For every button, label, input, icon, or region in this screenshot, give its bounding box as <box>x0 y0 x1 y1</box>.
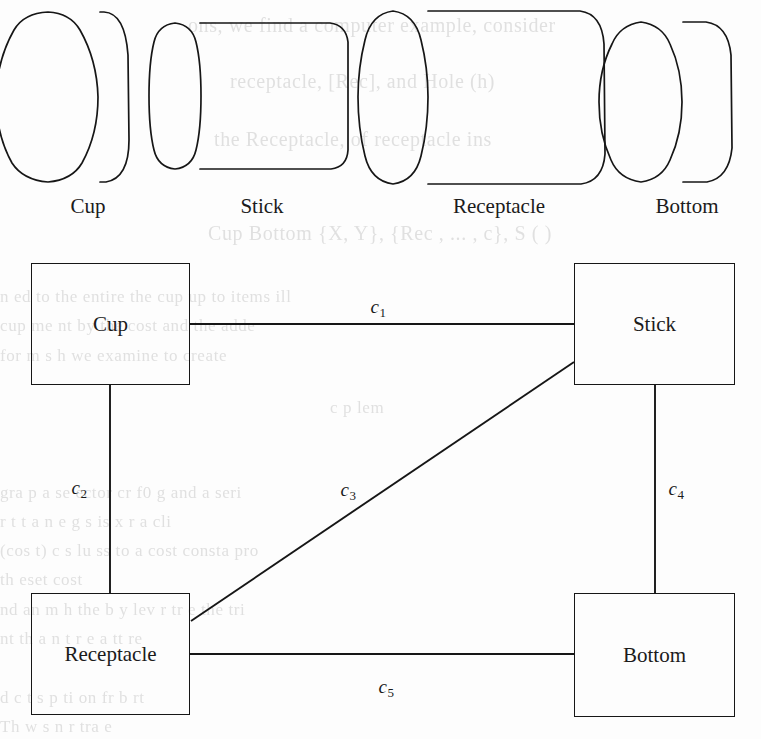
cylinder-caption-receptacle: Receptacle <box>453 196 545 217</box>
edge-label-c5-subscript: 5 <box>387 685 394 700</box>
edge-label-c3-symbol: c <box>341 479 349 500</box>
edge-label-c4: c4 <box>669 479 684 498</box>
graph-node-stick-label: Stick <box>633 314 676 335</box>
edge-label-c1-subscript: 1 <box>379 305 386 320</box>
graph-node-cup-label: Cup <box>93 314 128 335</box>
edge-label-c1: c1 <box>371 297 386 316</box>
edge-label-c2-symbol: c <box>72 477 80 498</box>
edge-label-c4-symbol: c <box>669 478 677 499</box>
edge-label-c2-subscript: 2 <box>80 486 87 501</box>
edge-c3-line <box>191 362 574 621</box>
edge-label-c3-subscript: 3 <box>349 488 356 503</box>
cylinder-receptacle <box>358 11 605 184</box>
edge-label-c3: c3 <box>341 480 356 499</box>
graph-node-stick[interactable]: Stick <box>574 263 735 385</box>
graph-node-cup[interactable]: Cup <box>31 263 190 385</box>
edge-label-c5: c5 <box>379 677 394 696</box>
figure-page: ons, we find a computer example, conside… <box>0 0 761 739</box>
graph-node-receptacle-label: Receptacle <box>64 644 156 665</box>
graph-node-bottom-label: Bottom <box>623 645 686 666</box>
edge-label-c4-subscript: 4 <box>677 487 684 502</box>
cylinder-caption-bottom: Bottom <box>655 196 718 217</box>
cylinder-caption-stick: Stick <box>240 196 283 217</box>
edge-label-c2: c2 <box>72 478 87 497</box>
cylinder-cup <box>0 12 129 182</box>
graph-node-bottom[interactable]: Bottom <box>574 593 735 717</box>
cylinder-stick <box>149 23 348 169</box>
edge-label-c1-symbol: c <box>371 296 379 317</box>
cylinder-caption-cup: Cup <box>70 196 105 217</box>
graph-node-receptacle[interactable]: Receptacle <box>31 593 190 715</box>
edge-label-c5-symbol: c <box>379 676 387 697</box>
cylinder-bottom <box>599 22 732 182</box>
